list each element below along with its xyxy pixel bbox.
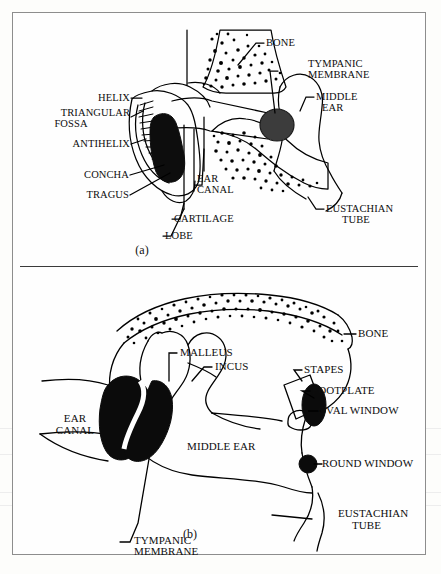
label-antihelix-a: ANTIHELIX: [12, 138, 130, 149]
helix-rim: [152, 84, 210, 107]
label-middle-ear-a-line1: MIDDLE: [316, 91, 357, 102]
panel-b: BONE MALLEUS INCUS STAPES FOOTPLATE OVAL…: [12, 271, 426, 554]
label-malleus-b: MALLEUS: [180, 347, 233, 358]
label-tympanic-a-line2: MEMBRANE: [308, 69, 369, 80]
label-ear-canal-a-line2: CANAL: [197, 184, 234, 195]
label-tragus-a: TRAGUS: [12, 189, 129, 200]
eustachian-outer-b: [317, 493, 324, 551]
ear-canal-upper-wall: [172, 98, 268, 113]
label-oval-window-b: OVAL WINDOW: [318, 405, 399, 416]
label-round-window-b: ROUND WINDOW: [322, 458, 413, 469]
panel-a: HELIX TRIANGULAR FOSSA ANTIHELIX CONCHA …: [12, 13, 426, 270]
lobe-outline: [162, 181, 195, 203]
label-eustachian-a-line2: TUBE: [342, 214, 370, 225]
label-cartilage-a: CARTILAGE: [174, 213, 234, 224]
leader-eustachian-a: [308, 197, 324, 209]
label-bone-b: BONE: [358, 328, 388, 339]
label-incus-b: INCUS: [215, 361, 249, 372]
label-eustachian-b-line1: EUSTACHIAN: [338, 508, 408, 519]
incus-body: [188, 333, 226, 413]
leader-malleus: [169, 353, 177, 381]
panel-divider: [20, 266, 418, 267]
eustachian-inner-b: [294, 487, 313, 541]
tympanic-membrane-a: [260, 109, 294, 141]
canal-floor-b: [40, 434, 108, 461]
leader-incus: [192, 367, 212, 381]
inner-wall-upper: [301, 417, 306, 453]
ear-canal-upper-b: [42, 379, 108, 385]
caption-a: (a): [12, 243, 272, 258]
caption-b: (b): [130, 527, 250, 542]
figure-page: HELIX TRIANGULAR FOSSA ANTIHELIX CONCHA …: [0, 0, 441, 574]
label-eustachian-a-line1: EUSTACHIAN: [326, 203, 393, 214]
malleus-head: [148, 332, 162, 341]
label-triangular-fossa-line1: TRIANGULAR: [12, 107, 130, 118]
label-eustachian-b-line2: TUBE: [352, 520, 381, 531]
concha-fill: [150, 114, 185, 183]
label-ear-canal-a-line1: EAR: [197, 173, 218, 184]
label-helix-a: HELIX: [12, 92, 130, 103]
label-ear-canal-b-line2: CANAL: [46, 425, 104, 436]
leader-eustachian-b: [272, 515, 312, 519]
label-tympanic-a-line1: TYMPANIC: [308, 58, 363, 69]
label-concha-a: CONCHA: [12, 169, 129, 180]
label-stapes-b: STAPES: [304, 364, 343, 375]
label-triangular-fossa-line2: FOSSA: [12, 118, 130, 129]
label-footplate-b: FOOTPLATE: [312, 385, 375, 396]
leader-middle-ear-a: [300, 97, 314, 111]
bone-stipple-b: [127, 293, 344, 344]
leader-tympanic-a: [270, 71, 278, 113]
incus-to-stapes: [212, 413, 282, 421]
bone-arch-inner: [124, 309, 342, 343]
ear-canal-lower-wall: [168, 128, 268, 139]
label-tympanic-b-line2: MEMBRANE: [134, 546, 198, 557]
label-middle-ear-a-line2: EAR: [322, 102, 343, 113]
label-bone-a: BONE: [266, 37, 295, 48]
label-lobe-a: LOBE: [165, 230, 193, 241]
bone-arch-right-cap: [338, 315, 352, 349]
label-ear-canal-b-line1: EAR: [46, 413, 104, 424]
label-middle-ear-b: MIDDLE EAR: [187, 441, 256, 452]
